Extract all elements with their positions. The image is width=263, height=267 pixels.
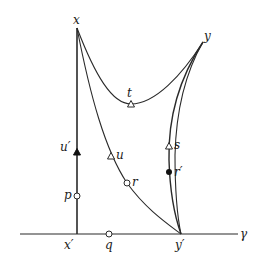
label-x: x <box>73 13 80 27</box>
point-s-marker <box>166 143 173 150</box>
point-p-marker <box>74 193 80 199</box>
label-y: y <box>203 29 211 43</box>
point-u-marker <box>108 153 115 160</box>
curve-x-y-through-t <box>77 28 203 104</box>
point-u-prime-marker <box>74 149 81 156</box>
point-r-marker <box>124 180 130 186</box>
point-r-prime-marker <box>166 169 172 175</box>
label-x-prime: x′ <box>64 238 74 252</box>
curve-x-yprime <box>77 28 181 234</box>
label-s: s <box>174 138 180 152</box>
label-r: r <box>132 175 139 189</box>
label-q: q <box>105 238 113 252</box>
label-t: t <box>127 86 132 100</box>
point-q-marker <box>106 231 112 237</box>
label-y-prime: y′ <box>174 238 185 252</box>
label-u: u <box>116 148 124 162</box>
label-gamma: γ <box>240 227 248 241</box>
hyperbolic-diagram: x y t u′ u s r′ p r x′ q y′ γ <box>0 0 263 267</box>
label-u-prime: u′ <box>60 140 71 154</box>
label-r-prime: r′ <box>174 165 183 179</box>
label-p: p <box>64 188 72 202</box>
